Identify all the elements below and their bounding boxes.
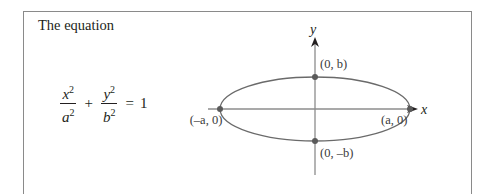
- y-axis-label: y: [308, 22, 317, 37]
- ellipse-diagram: x y (0, b) (0, –b) (–a, 0) (a, 0): [0, 0, 491, 194]
- vertex-bottom-point: [312, 138, 318, 144]
- label-bottom: (0, –b): [320, 146, 353, 160]
- vertex-right-point: [407, 106, 413, 112]
- label-right: (a, 0): [381, 113, 407, 127]
- label-top: (0, b): [320, 57, 347, 71]
- label-left: (–a, 0): [190, 113, 223, 127]
- vertex-left-point: [217, 106, 223, 112]
- x-axis-label: x: [420, 102, 428, 117]
- vertex-top-point: [312, 74, 318, 80]
